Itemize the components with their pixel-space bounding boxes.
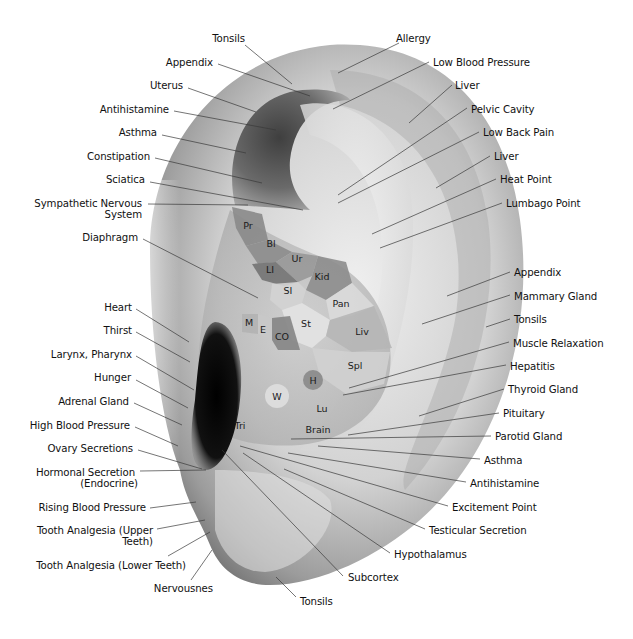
label-pituitary: Pituitary [503,408,545,419]
label-teeth: Teeth) [121,536,153,547]
label-testicular-secretion: Testicular Secretion [428,525,527,536]
zone-label-w: W [272,391,282,402]
label-antihistamine: Antihistamine [100,104,169,115]
label-larynx-pharynx: Larynx, Pharynx [51,349,132,360]
label-parotid-gland: Parotid Gland [495,431,562,442]
label-tooth-analgesia-upper: Tooth Analgesia (Upper [36,525,154,536]
label-muscle-relaxation: Muscle Relaxation [513,338,604,349]
zone-label-liv: Liv [355,326,369,337]
leader-line-tooth-analgesia-upper [157,520,205,529]
zone-label-ur: Ur [292,253,303,264]
zone-label-pr: Pr [243,220,253,231]
label-heart: Heart [104,302,132,313]
label-antihistamine: Antihistamine [470,478,539,489]
label-adrenal-gland: Adrenal Gland [58,396,129,407]
label-heat-point: Heat Point [500,174,552,185]
label-tonsils: Tonsils [211,33,245,44]
label-diaphragm: Diaphragm [82,232,138,243]
label-pelvic-cavity: Pelvic Cavity [471,104,535,115]
label-tonsils: Tonsils [299,596,333,607]
zone-label-pan: Pan [332,298,349,309]
label-nervousnes: Nervousnes [154,583,213,594]
label-appendix: Appendix [166,57,213,68]
label-excitement-point: Excitement Point [452,502,537,513]
zone-label-spl: Spl [348,360,363,371]
leader-line-tooth-analgesia-lower-teeth [168,532,210,556]
label-tooth-analgesia-lower-teeth: Tooth Analgesia (Lower Teeth) [35,560,186,571]
label-low-back-pain: Low Back Pain [483,127,554,138]
label-appendix: Appendix [514,267,561,278]
zone-label-m: M [245,317,253,328]
label-tonsils: Tonsils [513,314,547,325]
label-thirst: Thirst [103,325,133,336]
zone-label-li: LI [266,264,274,275]
label-endocrine: (Endocrine) [80,478,138,489]
label-hunger: Hunger [94,372,132,383]
label-high-blood-pressure: High Blood Pressure [30,420,130,431]
zone-label-tri: Tri [234,420,246,431]
label-lumbago-point: Lumbago Point [506,198,581,209]
ear-edge-fade [130,180,180,520]
label-sciatica: Sciatica [106,174,145,185]
label-asthma: Asthma [484,455,522,466]
zone-label-h: H [309,375,316,386]
label-rising-blood-pressure: Rising Blood Pressure [38,502,146,513]
label-liver: Liver [455,80,480,91]
leader-line-nervousnes [191,550,212,580]
label-hypothalamus: Hypothalamus [394,549,467,560]
label-hormonal-secretion: Hormonal Secretion [36,467,135,478]
label-constipation: Constipation [87,151,150,162]
label-thyroid-gland: Thyroid Gland [507,384,578,395]
label-asthma: Asthma [119,127,157,138]
label-mammary-gland: Mammary Gland [514,291,597,302]
label-system: System [105,209,143,220]
label-allergy: Allergy [396,33,431,44]
zone-label-st: St [301,318,311,329]
label-ovary-secretions: Ovary Secretions [47,443,133,454]
ear-acupressure-diagram: Ear Acupressure Points [0,0,633,639]
label-uterus: Uterus [150,80,183,91]
zone-label-bl: Bl [266,238,275,249]
label-hepatitis: Hepatitis [510,361,555,372]
zone-label-co: CO [275,331,289,342]
label-sympathetic-nervous: Sympathetic Nervous [34,198,142,209]
zone-label-lu: Lu [316,403,327,414]
label-liver: Liver [494,151,519,162]
zone-label-brain: Brain [306,424,331,435]
label-low-blood-pressure: Low Blood Pressure [433,57,530,68]
label-subcortex: Subcortex [348,572,399,583]
zone-label-e: E [260,324,266,335]
zone-label-si: SI [284,285,293,296]
zone-label-kid: Kid [315,271,330,282]
